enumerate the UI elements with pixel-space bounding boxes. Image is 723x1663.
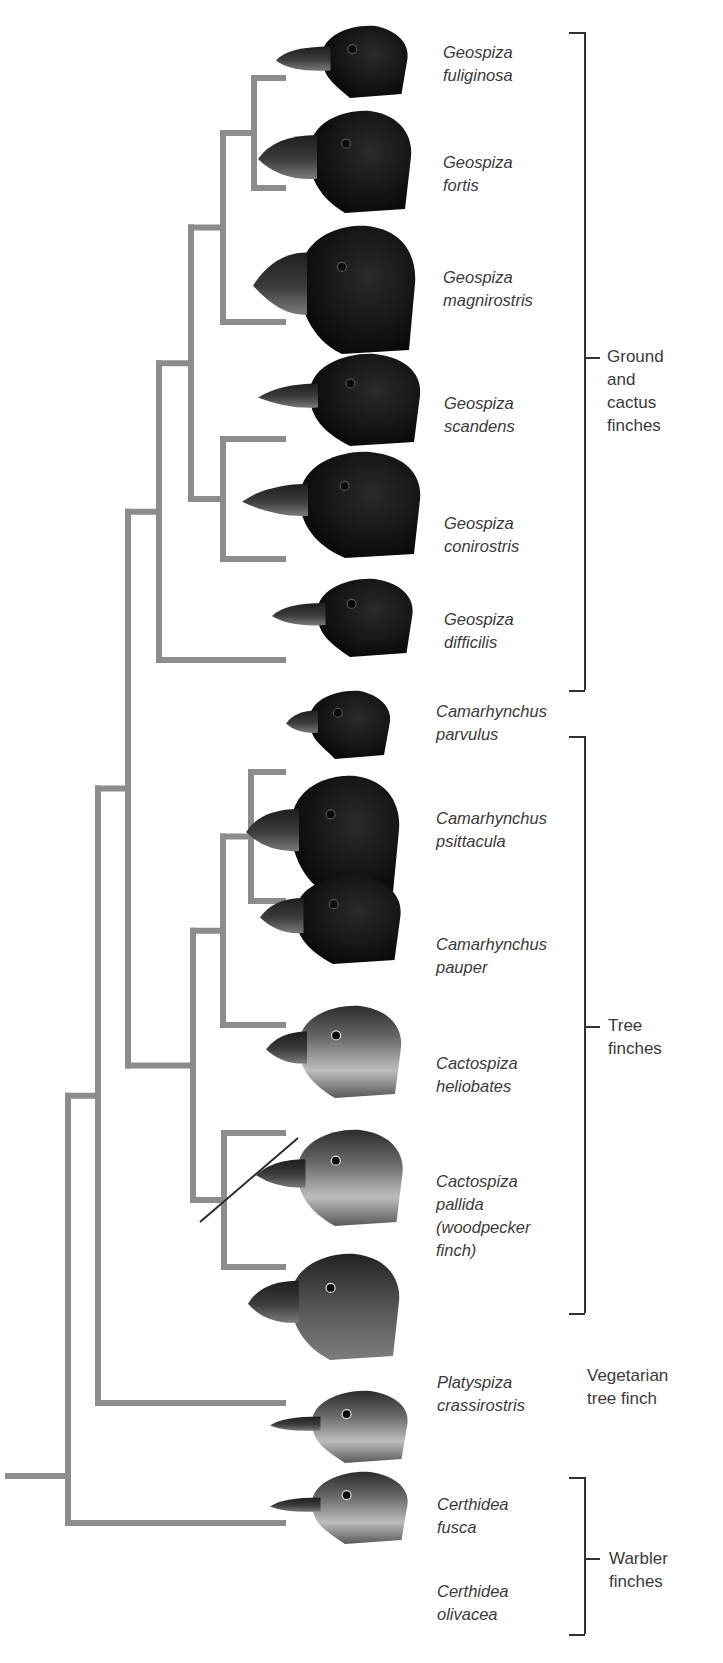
bracket-bottom-tick bbox=[569, 690, 585, 692]
beak bbox=[270, 1416, 321, 1430]
eye bbox=[342, 1410, 351, 1419]
bracket-label-tick bbox=[584, 1026, 600, 1028]
bracket-top-tick bbox=[569, 736, 585, 738]
eye bbox=[331, 1156, 340, 1165]
head-silhouette bbox=[309, 691, 390, 759]
bird-head-difficilis bbox=[272, 579, 413, 657]
species-label-difficilis: Geospiza difficilis bbox=[444, 608, 514, 654]
bird-head-olivacea bbox=[270, 1472, 408, 1544]
head-silhouette bbox=[295, 876, 401, 964]
bracket-bottom-tick bbox=[569, 1313, 585, 1315]
bird-head-conirostris bbox=[242, 452, 420, 558]
species-label-fuliginosa: Geospiza fuliginosa bbox=[443, 41, 513, 87]
eye bbox=[332, 1031, 341, 1040]
bracket-bottom-tick bbox=[569, 1634, 585, 1636]
beak bbox=[258, 135, 317, 179]
eye bbox=[348, 45, 357, 54]
bracket-line bbox=[584, 32, 586, 690]
bird-head-fusca bbox=[270, 1391, 408, 1463]
bird-head-fuliginosa bbox=[276, 26, 408, 98]
group-label-tree: Tree finches bbox=[608, 1014, 662, 1060]
head-silhouette bbox=[299, 1006, 402, 1098]
head-silhouette bbox=[322, 26, 408, 98]
eye bbox=[347, 599, 356, 608]
species-label-parvulus: Camarhynchus parvulus bbox=[436, 700, 547, 746]
beak bbox=[253, 253, 307, 315]
species-label-magnirostris: Geospiza magnirostris bbox=[443, 266, 533, 312]
bird-head-pallida bbox=[200, 1130, 403, 1226]
head-silhouette bbox=[317, 579, 413, 657]
species-label-olivacea: Certhidea olivacea bbox=[437, 1580, 509, 1626]
species-label-psittacula: Camarhynchus psittacula bbox=[436, 807, 547, 853]
bracket-label-tick bbox=[584, 1558, 600, 1560]
species-label-crassirostris: Platyspiza crassirostris bbox=[437, 1371, 525, 1417]
bracket-top-tick bbox=[569, 1477, 585, 1479]
beak bbox=[266, 1031, 307, 1063]
head-silhouette bbox=[310, 354, 421, 446]
bird-head-pauper bbox=[260, 876, 401, 964]
head-silhouette bbox=[309, 111, 412, 213]
eye bbox=[329, 900, 338, 909]
eye bbox=[333, 708, 342, 717]
species-label-conirostris: Geospiza conirostris bbox=[444, 512, 519, 558]
beak bbox=[272, 603, 326, 625]
species-label-fusca: Certhidea fusca bbox=[437, 1493, 509, 1539]
tree-branches bbox=[0, 0, 723, 1663]
eye bbox=[342, 139, 351, 148]
group-label-ground: Ground and cactus finches bbox=[607, 345, 664, 437]
group-label-vegetarian: Vegetarian tree finch bbox=[587, 1364, 668, 1410]
bird-head-heliobates bbox=[266, 1006, 401, 1098]
beak bbox=[256, 1159, 306, 1187]
head-silhouette bbox=[300, 452, 421, 558]
bracket-line bbox=[584, 1477, 586, 1634]
eye bbox=[326, 810, 335, 819]
eye bbox=[337, 262, 346, 271]
species-label-pallida: Cactospiza pallida (woodpecker finch) bbox=[436, 1170, 530, 1262]
head-silhouette bbox=[312, 1472, 408, 1544]
beak bbox=[276, 46, 331, 70]
head-silhouette bbox=[312, 1391, 408, 1463]
beak bbox=[286, 711, 318, 733]
bird-head-psittacula bbox=[246, 776, 399, 896]
species-label-fortis: Geospiza fortis bbox=[443, 151, 513, 197]
species-label-pauper: Camarhynchus pauper bbox=[436, 933, 547, 979]
head-silhouette bbox=[299, 226, 416, 354]
group-label-warbler: Warbler finches bbox=[609, 1547, 668, 1593]
bracket-line bbox=[584, 736, 586, 1313]
bird-head-parvulus bbox=[286, 691, 390, 759]
eye bbox=[346, 379, 355, 388]
species-label-heliobates: Cactospiza heliobates bbox=[436, 1052, 518, 1098]
beak bbox=[270, 1497, 321, 1511]
bracket-label-tick bbox=[584, 357, 600, 359]
species-label-scandens: Geospiza scandens bbox=[444, 392, 515, 438]
bird-head-magnirostris bbox=[253, 226, 415, 354]
phylogenetic-tree-figure: Geospiza fuliginosaGeospiza fortisGeospi… bbox=[0, 0, 723, 1663]
eye bbox=[340, 481, 349, 490]
head-silhouette bbox=[297, 1130, 403, 1226]
bird-head-scandens bbox=[258, 354, 420, 446]
eye bbox=[326, 1283, 335, 1292]
head-silhouette bbox=[291, 1254, 400, 1360]
bird-head-fortis bbox=[258, 111, 411, 213]
beak bbox=[248, 1281, 299, 1323]
beak bbox=[242, 484, 308, 516]
bracket-top-tick bbox=[569, 32, 585, 34]
eye bbox=[342, 1491, 351, 1500]
beak bbox=[258, 383, 318, 407]
